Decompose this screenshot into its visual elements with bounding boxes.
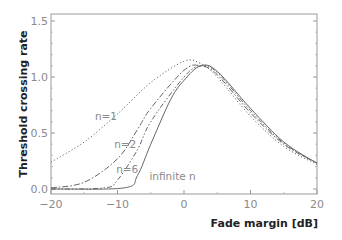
y-tick-label: 1.0 [31, 71, 49, 84]
x-tick-label: 0 [181, 198, 188, 211]
x-axis-title: Fade margin [dB] [211, 217, 318, 230]
curve-label: n=2 [114, 138, 136, 150]
curve-label: infinite n [149, 170, 195, 182]
curve-labels: n=1n=2n=6infinite n [95, 110, 196, 182]
x-tick-label: −10 [106, 198, 129, 211]
y-tick-label: 0.5 [31, 127, 49, 140]
x-axis: −20−1001020 [39, 190, 324, 211]
line-chart: 0.00.51.01.5 −20−1001020 n=1n=2n=6infini… [0, 0, 342, 240]
x-tick-label: 20 [310, 198, 324, 211]
x-tick-label: −20 [39, 198, 62, 211]
x-tick-label: 10 [244, 198, 258, 211]
curve-label: n=6 [116, 163, 138, 175]
y-tick-label: 1.5 [31, 15, 49, 28]
plot-frame [51, 14, 317, 194]
y-axis: 0.00.51.01.5 [31, 15, 318, 196]
curve-label: n=1 [95, 110, 117, 122]
curve-n-1 [51, 60, 317, 164]
y-axis-title: Threshold crossing rate [17, 30, 30, 177]
y-tick-label: 0.0 [31, 183, 49, 196]
